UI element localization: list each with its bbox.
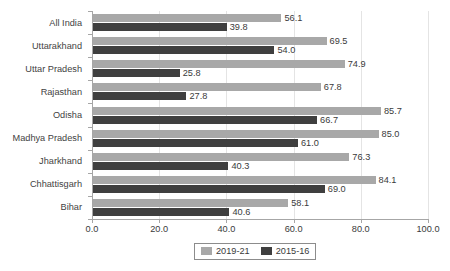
bar-value-label: 76.3: [352, 152, 370, 162]
x-axis-tick-label: 100.0: [417, 224, 440, 235]
bar-value-label: 67.8: [324, 82, 342, 92]
x-axis-tick-label: 20.0: [150, 224, 168, 235]
legend-swatch-icon: [201, 247, 212, 255]
bar: [93, 92, 186, 100]
bar-value-label: 84.1: [379, 175, 397, 185]
category-label: Madhya Pradesh: [13, 133, 82, 143]
y-axis-tick: [88, 150, 92, 151]
plot-area: 56.139.869.554.074.925.867.827.885.766.7…: [92, 11, 428, 219]
bar: [93, 153, 349, 161]
bar: [93, 69, 180, 77]
category-label: Jharkhand: [39, 156, 82, 166]
category-label: Rajasthan: [41, 87, 82, 97]
bar-value-label: 58.1: [291, 198, 309, 208]
y-axis-tick: [88, 173, 92, 174]
legend-item[interactable]: 2019-21: [201, 246, 250, 256]
category-label: Bihar: [61, 202, 82, 212]
bar-value-label: 27.8: [189, 91, 207, 101]
x-axis-tick-label: 40.0: [217, 224, 235, 235]
y-axis-tick: [88, 196, 92, 197]
legend-label: 2015-16: [276, 246, 310, 256]
bar-value-label: 56.1: [284, 13, 302, 23]
x-axis-tick: [294, 219, 295, 223]
y-axis-tick: [88, 57, 92, 58]
bar: [93, 185, 325, 193]
bar-value-label: 40.3: [231, 161, 249, 171]
bar-value-label: 40.6: [232, 207, 250, 217]
category-label: Chhattisgarh: [30, 179, 82, 189]
category-label: Uttarakhand: [32, 41, 82, 51]
x-axis-tick: [226, 219, 227, 223]
bar: [93, 130, 379, 138]
bar: [93, 107, 381, 115]
bar: [93, 46, 274, 54]
x-axis-tick-label: 60.0: [285, 224, 303, 235]
bar-value-label: 69.0: [328, 184, 346, 194]
bar-value-label: 85.0: [382, 129, 400, 139]
legend-item[interactable]: 2015-16: [261, 246, 310, 256]
x-axis-tick: [92, 219, 93, 223]
y-axis-tick: [88, 11, 92, 12]
bar-value-label: 69.5: [330, 36, 348, 46]
x-axis-line: [92, 219, 428, 220]
bar: [93, 14, 281, 22]
bar: [93, 199, 288, 207]
bar: [93, 176, 376, 184]
bar-value-label: 39.8: [230, 22, 248, 32]
y-axis-tick: [88, 219, 92, 220]
gridline: [428, 11, 429, 219]
x-axis-tick-label: 80.0: [352, 224, 370, 235]
x-axis-tick: [159, 219, 160, 223]
category-label: Odisha: [53, 110, 82, 120]
x-axis-tick: [428, 219, 429, 223]
chart-legend: 2019-212015-16: [194, 243, 316, 260]
bar: [93, 37, 327, 45]
bar-value-label: 85.7: [384, 106, 402, 116]
bar: [93, 116, 317, 124]
bar-value-label: 54.0: [277, 45, 295, 55]
category-label: All India: [49, 18, 82, 28]
category-label: Uttar Pradesh: [25, 64, 82, 74]
bar: [93, 23, 227, 31]
bar: [93, 208, 229, 216]
bar: [93, 162, 228, 170]
bar-value-label: 66.7: [320, 115, 338, 125]
x-axis-tick-labels: 0.020.040.060.080.0100.0: [92, 224, 428, 238]
legend-label: 2019-21: [216, 246, 250, 256]
bar: [93, 139, 298, 147]
x-axis-tick: [361, 219, 362, 223]
bar-value-label: 61.0: [301, 138, 319, 148]
bar: [93, 60, 345, 68]
category-axis-labels: All IndiaUttarakhandUttar PradeshRajasth…: [0, 11, 86, 219]
bar: [93, 83, 321, 91]
bar-chart: All IndiaUttarakhandUttar PradeshRajasth…: [0, 0, 450, 271]
bar-value-label: 74.9: [348, 59, 366, 69]
y-axis-tick: [88, 34, 92, 35]
y-axis-tick: [88, 80, 92, 81]
x-axis-tick-label: 0.0: [86, 224, 99, 235]
bar-value-label: 25.8: [183, 68, 201, 78]
legend-swatch-icon: [261, 247, 272, 255]
y-axis-tick: [88, 103, 92, 104]
gridline: [361, 11, 362, 219]
y-axis-tick: [88, 127, 92, 128]
